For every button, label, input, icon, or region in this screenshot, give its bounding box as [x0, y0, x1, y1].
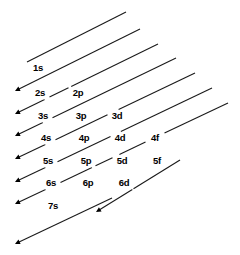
arrow-shaft	[27, 12, 126, 62]
arrow-shaft	[121, 88, 212, 132]
orbital-label-3s: 3s	[36, 110, 49, 122]
orbital-label-3d: 3d	[110, 110, 124, 122]
arrow-shaft	[17, 190, 45, 203]
arrow-3s-3p	[15, 44, 158, 114]
orbital-label-1s: 1s	[31, 62, 44, 74]
arrow-shaft	[17, 168, 45, 181]
orbital-label-5d: 5d	[115, 155, 129, 167]
arrow-1s	[27, 12, 126, 62]
orbital-label-5f: 5f	[151, 155, 162, 167]
orbital-label-4p: 4p	[77, 132, 91, 144]
orbital-label-7s: 7s	[46, 200, 59, 212]
orbital-label-4s: 4s	[39, 132, 52, 144]
orbital-label-4f: 4f	[149, 132, 160, 144]
orbital-label-6d: 6d	[117, 177, 131, 189]
arrow-shaft	[71, 44, 158, 87]
arrow-shaft	[17, 29, 140, 90]
orbital-label-5s: 5s	[41, 155, 54, 167]
arrow-2s-2p	[15, 29, 140, 91]
arrow-shaft	[165, 103, 229, 133]
arrow-shaft	[119, 73, 195, 110]
orbital-label-2p: 2p	[71, 87, 85, 99]
arrow-shaft	[17, 198, 112, 243]
arrow-shaft	[50, 88, 69, 97]
arrow-last-7s	[15, 198, 112, 244]
orbital-label-6p: 6p	[81, 177, 95, 189]
orbital-label-2s: 2s	[33, 87, 46, 99]
arrow-layer	[0, 0, 240, 255]
arrow-bottom-6d	[96, 160, 180, 212]
aufbau-orbital-diagram: 1s2s2p3s3p3d4s4p4d4f5s5p5d5f6s6p6d7s	[0, 0, 240, 255]
orbital-label-3p: 3p	[74, 110, 88, 122]
orbital-label-5p: 5p	[79, 155, 93, 167]
arrow-shaft	[119, 142, 145, 154]
orbital-label-6s: 6s	[44, 177, 57, 189]
arrow-shaft	[98, 190, 132, 211]
arrow-shaft	[96, 158, 113, 166]
orbital-label-4d: 4d	[113, 132, 127, 144]
